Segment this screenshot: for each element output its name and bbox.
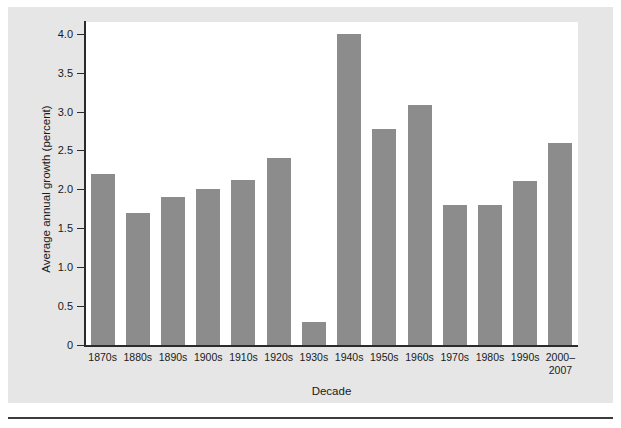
bar	[196, 189, 220, 345]
x-tick-label: 1930s	[296, 351, 331, 364]
x-tick-label: 1940s	[332, 351, 367, 364]
y-tick-mark	[77, 73, 85, 74]
x-tick-label: 1990s	[508, 351, 543, 364]
x-axis-line	[84, 345, 578, 347]
bar	[337, 34, 361, 345]
x-tick-label: 1910s	[226, 351, 261, 364]
x-tick-label: 1920s	[261, 351, 296, 364]
y-tick-mark	[77, 345, 85, 346]
plot-area	[85, 22, 578, 345]
y-axis-line	[84, 21, 86, 346]
x-tick-label: 1880s	[120, 351, 155, 364]
bar	[91, 174, 115, 345]
x-tick-label: 2000– 2007	[543, 351, 578, 377]
y-tick-mark	[77, 306, 85, 307]
bottom-divider	[8, 417, 613, 419]
y-tick-mark	[77, 34, 85, 35]
x-axis-title: Decade	[85, 385, 578, 397]
bar	[372, 129, 396, 345]
x-tick-label: 1970s	[437, 351, 472, 364]
bar	[513, 181, 537, 345]
x-tick-label: 1960s	[402, 351, 437, 364]
bar	[408, 105, 432, 345]
bar	[267, 158, 291, 345]
y-tick-label: 0	[29, 339, 73, 351]
bar	[161, 197, 185, 345]
y-axis-title: Average annual growth (percent)	[40, 39, 52, 339]
y-tick-mark	[77, 228, 85, 229]
chart-page: 00.51.01.52.02.53.03.54.0 1870s1880s1890…	[0, 0, 621, 428]
y-tick-mark	[77, 112, 85, 113]
x-tick-label: 1900s	[191, 351, 226, 364]
bar	[478, 205, 502, 345]
x-tick-label: 1950s	[367, 351, 402, 364]
bar	[302, 322, 326, 345]
x-tick-label: 1980s	[472, 351, 507, 364]
y-tick-mark	[77, 150, 85, 151]
bar	[443, 205, 467, 345]
y-tick-label: 4.0	[29, 28, 73, 40]
x-tick-label: 1870s	[85, 351, 120, 364]
bar	[548, 143, 572, 345]
bar	[126, 213, 150, 345]
bar	[231, 180, 255, 345]
y-tick-mark	[77, 267, 85, 268]
y-tick-mark	[77, 189, 85, 190]
x-tick-label: 1890s	[155, 351, 190, 364]
